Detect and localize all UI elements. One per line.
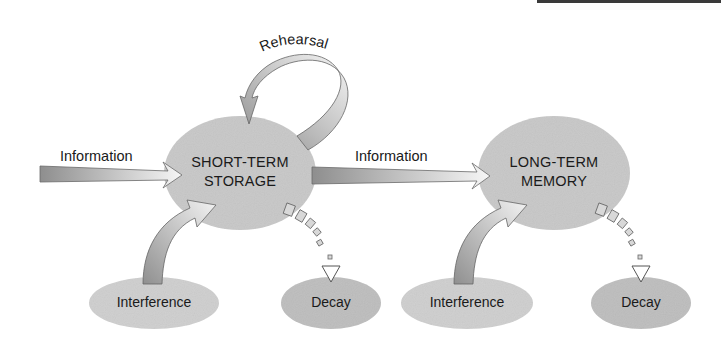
decay-trail-2 [595, 203, 642, 259]
interference-arrow-2 [454, 200, 527, 284]
long-term-line1: LONG-TERM [484, 153, 624, 172]
decay-label-2: Decay [601, 294, 681, 310]
information-in-arrow [40, 162, 182, 188]
information-transfer-label: Information [355, 148, 428, 164]
decay-label-1: Decay [291, 294, 371, 310]
information-transfer-arrow [312, 163, 490, 189]
information-in-label: Information [60, 148, 133, 164]
long-term-line2: MEMORY [484, 172, 624, 191]
interference-label-2: Interference [407, 294, 527, 310]
interference-arrow-1 [143, 200, 216, 284]
decay-trail-1 [283, 203, 332, 259]
long-term-memory-label: LONG-TERM MEMORY [484, 153, 624, 191]
rehearsal-label: Rehearsal [257, 31, 330, 55]
short-term-line1: SHORT-TERM [170, 153, 310, 172]
short-term-storage-label: SHORT-TERM STORAGE [170, 153, 310, 191]
interference-label-1: Interference [94, 294, 214, 310]
short-term-line2: STORAGE [170, 172, 310, 191]
